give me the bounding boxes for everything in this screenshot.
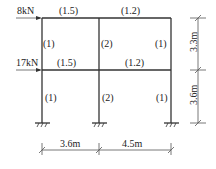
beam-label: (1.5) bbox=[59, 5, 78, 17]
column-label: (1) bbox=[43, 38, 55, 50]
height-label: 3.3m bbox=[188, 32, 199, 53]
beam-label: (1.2) bbox=[121, 5, 140, 17]
load-label-roof: 8kN bbox=[17, 5, 34, 16]
span-label: 3.6m bbox=[60, 138, 81, 149]
column-label: (1) bbox=[155, 38, 167, 50]
load-arrow-roof bbox=[16, 16, 42, 20]
load-arrow-floor bbox=[16, 68, 42, 72]
load-label-floor: 17kN bbox=[16, 57, 38, 68]
column-label: (1) bbox=[156, 92, 168, 104]
column-label: (1) bbox=[45, 92, 57, 104]
fixed-support-left bbox=[35, 123, 50, 127]
column-label: (2) bbox=[102, 92, 114, 104]
frame-diagram: 8kN 17kN (1.5) (1.2) (1.5) (1.2) (1) (2)… bbox=[0, 0, 216, 169]
span-label: 4.5m bbox=[122, 138, 143, 149]
fixed-support-right bbox=[164, 123, 179, 127]
beam-label: (1.2) bbox=[125, 57, 144, 69]
height-dimension-line bbox=[190, 15, 206, 126]
height-label: 3.6m bbox=[188, 85, 199, 106]
column-label: (2) bbox=[101, 38, 113, 50]
fixed-support-middle bbox=[92, 123, 107, 127]
beam-label: (1.5) bbox=[57, 57, 76, 69]
